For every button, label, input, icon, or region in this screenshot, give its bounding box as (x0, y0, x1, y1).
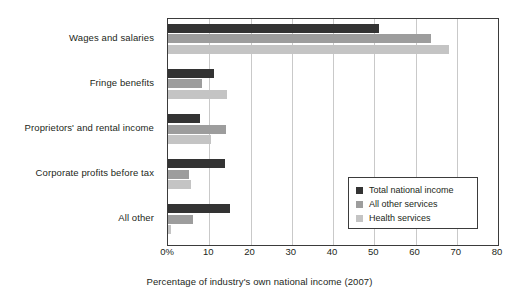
bar (168, 125, 226, 134)
x-axis-tick-4: 40 (327, 246, 338, 258)
bar-chart-figure: Wages and salariesFringe benefitsProprie… (0, 0, 519, 300)
bar (168, 180, 191, 189)
legend-swatch-icon (356, 215, 363, 222)
x-axis-tick-0: 0% (160, 246, 174, 258)
bar (168, 170, 189, 179)
bar (168, 79, 202, 88)
y-axis-category-labels: Wages and salariesFringe benefitsProprie… (0, 18, 160, 244)
y-axis-label-4: All other (118, 212, 154, 223)
bar (168, 69, 214, 78)
x-axis-tick-6: 60 (409, 246, 420, 258)
y-axis-label-0: Wages and salaries (69, 32, 154, 43)
bar (168, 159, 225, 168)
x-axis-tick-2: 20 (244, 246, 255, 258)
x-axis-tick-5: 50 (368, 246, 379, 258)
x-axis-title: Percentage of industry's own national in… (0, 276, 519, 288)
bar (168, 24, 379, 33)
legend-label: Health services (369, 213, 431, 223)
legend-item[interactable]: All other services (356, 197, 471, 211)
chart-legend: Total national incomeAll other servicesH… (348, 177, 478, 229)
legend-label: Total national income (369, 185, 454, 195)
bar (168, 90, 227, 99)
bar (168, 45, 449, 54)
x-axis-tick-7: 70 (450, 246, 461, 258)
legend-item[interactable]: Health services (356, 211, 471, 225)
x-axis-tick-labels: 0%1020304050607080 (167, 246, 498, 260)
x-axis-tick-3: 30 (285, 246, 296, 258)
legend-swatch-icon (356, 201, 363, 208)
bar (168, 225, 171, 234)
bar (168, 114, 200, 123)
x-axis-tick-8: 80 (492, 246, 503, 258)
bar (168, 204, 230, 213)
bar (168, 34, 431, 43)
y-axis-label-2: Proprietors' and rental income (25, 122, 154, 133)
legend-label: All other services (369, 199, 438, 209)
y-axis-label-3: Corporate profits before tax (36, 167, 154, 178)
y-axis-label-1: Fringe benefits (90, 77, 154, 88)
bar (168, 215, 193, 224)
x-axis-tick-1: 10 (203, 246, 214, 258)
legend-swatch-icon (356, 187, 363, 194)
legend-item[interactable]: Total national income (356, 183, 471, 197)
bar (168, 135, 211, 144)
